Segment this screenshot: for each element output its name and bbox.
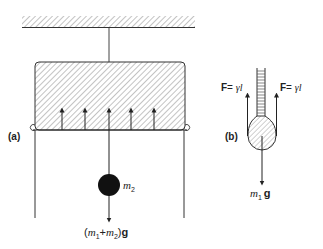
panel-b-label: (b): [225, 131, 238, 142]
mass-m2: [98, 174, 120, 196]
mass-m2-label: m2: [123, 179, 135, 193]
panel-b: F= γl F= γl (b) m1g: [221, 68, 302, 201]
panel-a: (a) m2 (m1+m2)g: [8, 16, 195, 240]
drop-weight-label: m1g: [250, 187, 271, 201]
panel-a-label: (a): [8, 131, 20, 142]
force-label-right: F= γl: [280, 82, 302, 93]
ceiling-support: [22, 16, 195, 28]
liquid-neck: [257, 68, 265, 116]
total-weight-label: (m1+m2)g: [84, 226, 128, 240]
force-label-left: F= γl: [221, 82, 243, 93]
surface-tension-diagram: (a) m2 (m1+m2)g: [0, 0, 323, 249]
